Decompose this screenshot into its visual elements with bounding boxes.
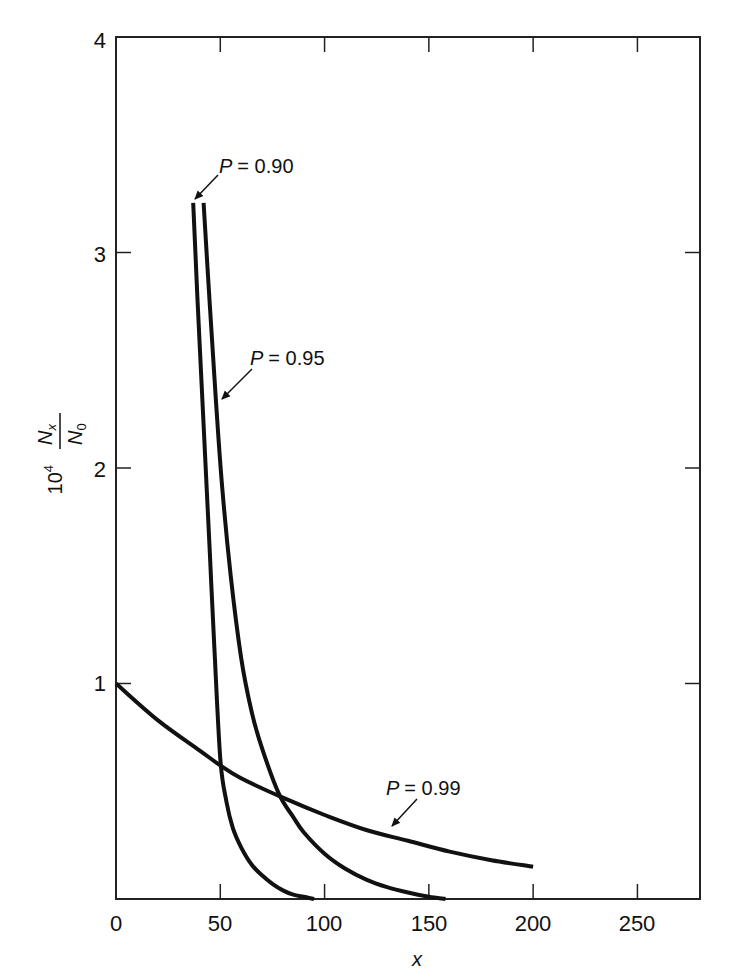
y-label-exponent: 4 xyxy=(41,465,56,472)
axis-ticks xyxy=(116,37,700,899)
arrow-icon xyxy=(195,175,218,199)
svg-text:104: 104 xyxy=(41,465,66,494)
arrow-icon xyxy=(222,369,252,399)
svg-text:P= 0.90: P= 0.90 xyxy=(219,155,294,177)
svg-text:Nx: Nx xyxy=(34,424,59,445)
annotation-p-0-90: P= 0.90 xyxy=(195,155,294,199)
y-label-prefix: 10 xyxy=(44,472,66,494)
annotation-p-0-99: P= 0.99 xyxy=(386,777,461,826)
annotation-p-0-95: P= 0.95 xyxy=(222,347,325,399)
x-tick-labels: 0 50 100 150 200 250 xyxy=(110,911,655,936)
y-label-denominator-sub: 0 xyxy=(74,423,89,430)
y-tick-label: 2 xyxy=(94,457,106,482)
svg-text:P= 0.99: P= 0.99 xyxy=(386,777,461,799)
x-tick-label: 150 xyxy=(411,911,448,936)
x-tick-label: 100 xyxy=(306,911,343,936)
x-axis-label: x xyxy=(411,948,423,970)
x-tick-label: 0 xyxy=(110,911,122,936)
y-tick-label: 1 xyxy=(94,671,106,696)
annotation-value: = 0.99 xyxy=(404,777,460,799)
y-label-numerator-sub: x xyxy=(44,424,59,432)
x-tick-label: 200 xyxy=(515,911,552,936)
x-tick-label: 250 xyxy=(619,911,656,936)
annotation-var: P xyxy=(219,155,233,177)
curve-p-0-99 xyxy=(116,684,533,867)
chart: 0 50 100 150 200 250 1 2 3 4 x 104 Nx N0… xyxy=(0,0,739,978)
annotation-value: = 0.95 xyxy=(268,347,324,369)
y-tick-label: 4 xyxy=(94,28,106,53)
y-label-denominator: N xyxy=(64,430,86,445)
y-tick-labels: 1 2 3 4 xyxy=(94,28,106,696)
arrow-icon xyxy=(392,799,417,826)
x-tick-label: 50 xyxy=(208,911,232,936)
annotation-var: P xyxy=(250,347,264,369)
svg-text:N0: N0 xyxy=(64,423,89,445)
annotation-var: P xyxy=(386,777,400,799)
y-axis-label: 104 Nx N0 xyxy=(34,413,89,494)
annotation-value: = 0.90 xyxy=(237,155,293,177)
y-tick-label: 3 xyxy=(94,242,106,267)
plot-frame xyxy=(116,37,700,899)
svg-text:P= 0.95: P= 0.95 xyxy=(250,347,325,369)
y-label-numerator: N xyxy=(34,430,56,445)
